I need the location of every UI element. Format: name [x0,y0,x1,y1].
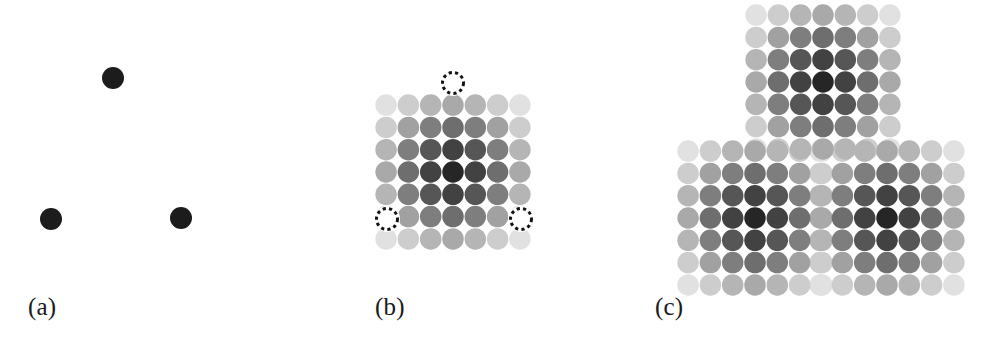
point-source-bottom-left [40,208,62,230]
kernel-dot [509,184,531,206]
kernel-dot [375,184,397,206]
kernel-dot [768,4,790,26]
kernel-dot [809,163,831,185]
kernel-dot [767,252,789,274]
kernel-dot [812,49,834,70]
kernel-dot [722,185,744,207]
kernel-dot [857,116,879,138]
kernel-dot [700,185,722,207]
kernel-dot [899,163,921,185]
kernel-dot [442,228,464,250]
kernel-dot [700,140,722,162]
kernel-dot [876,163,898,185]
kernel-dot [899,207,921,229]
kernel-dot [835,49,857,70]
kernel-dot [854,230,876,252]
kernel-dot [809,207,831,229]
kernel-dot [420,161,442,183]
panel-a-label: (a) [28,294,56,319]
kernel-dot [789,163,811,185]
kernel-dot [835,27,857,49]
kernel-dot [943,252,965,274]
kernel-dot [442,184,464,206]
kernel-dot [812,27,834,49]
kernel-dot [899,274,921,296]
kernel-dot [677,140,699,162]
kernel-dot [854,252,876,274]
kernel-dot [790,27,812,49]
kernel-dot [745,27,767,49]
kernel-dot [677,230,699,252]
kernel-dot [854,185,876,207]
kernel-dot [876,207,898,229]
panel-c-canvas [660,0,991,339]
kernel-dot [398,94,420,116]
kernel-dot [420,117,442,138]
kernel-dot [465,139,487,161]
kernel-dot [465,206,487,228]
kernel-dot [744,140,766,162]
kernel-dot [398,139,420,161]
kernel-dot [854,140,876,162]
kernel-dot [722,207,744,229]
kernel-dot [487,117,509,138]
kernel-dot [790,138,812,160]
kernel-dot [768,27,790,49]
kernel-dot [744,207,766,229]
kernel-dot [921,252,943,274]
kernel-dot [879,94,901,116]
kernel-dot [832,274,854,296]
kernel-dot [876,140,898,162]
kernel-dot [767,274,789,296]
kernel-dot [809,230,831,252]
kernel-dot [745,116,767,138]
kernel-dot [465,117,487,138]
kernel-dot [768,71,790,93]
kernel-dot [790,116,812,138]
kernel-dot [876,185,898,207]
kernel-dot [857,49,879,70]
kernel-dot [398,228,420,250]
kernel-dot [767,140,789,162]
kernel-dot [879,71,901,93]
kernel-dot [809,252,831,274]
kernel-dot [921,230,943,252]
kernel-dot [921,207,943,229]
kernel-dot [744,185,766,207]
kernel-dot [700,163,722,185]
kernel-dot [722,163,744,185]
kernel-dot [899,140,921,162]
kernel-dot [812,94,834,116]
panel-b-label: (b) [375,294,405,319]
panel-c-label: (c) [655,294,683,319]
kernel-dot [420,184,442,206]
kernel-dot [899,252,921,274]
kernel-dot [899,185,921,207]
kernel-dot [677,185,699,207]
kernel-dot [677,207,699,229]
kernel-dot [767,207,789,229]
kernel-dot [789,207,811,229]
kernel-dot [744,163,766,185]
kernel-dot [700,230,722,252]
kernel-dot [677,252,699,274]
kernel-dot [789,252,811,274]
kernel-dot [835,4,857,26]
kernel-dot [442,117,464,138]
kernel-dot [420,228,442,250]
kernel-dot [420,139,442,161]
kernel-dot [398,161,420,183]
kernel-dot [465,94,487,116]
kernel-dot [899,230,921,252]
kernel-dot [487,94,509,116]
kernel-dot [789,230,811,252]
kernel-dot [768,94,790,116]
kernel-dot [857,4,879,26]
kernel-dot [744,274,766,296]
kernel-dot [745,94,767,116]
kernel-dot [879,49,901,70]
kernel-dot [879,116,901,138]
kernel-dot [832,252,854,274]
kernel-dot [398,206,420,228]
kernel-dot [745,71,767,93]
